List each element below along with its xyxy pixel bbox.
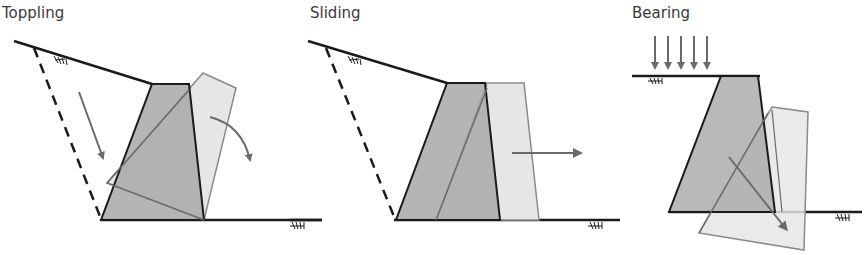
wedge-arrow-icon [79,92,103,158]
diagram-canvas [0,0,868,255]
surcharge-load-icon [655,36,707,68]
toppling-panel [14,41,322,229]
wall [396,83,500,220]
backfill-surface [308,41,447,83]
bearing-panel [632,36,862,250]
failure-plane-dashed [326,48,395,219]
failure-plane-dashed [34,48,101,219]
backfill-surface [14,41,152,84]
sliding-panel [290,41,620,229]
